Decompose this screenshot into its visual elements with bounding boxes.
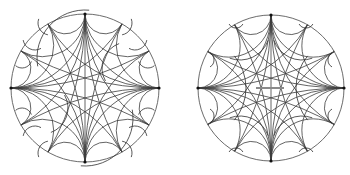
geodesic-arc	[48, 14, 85, 34]
geodesic-arc	[11, 51, 31, 88]
geodesic-arc	[271, 141, 308, 161]
hyperbolic-tiling-figure	[0, 0, 350, 175]
left-poincare-disk	[9, 10, 160, 166]
detail-arc	[16, 61, 32, 68]
geodesic-arc	[11, 88, 85, 162]
detail-arc	[23, 126, 41, 136]
geodesic-arc	[271, 15, 308, 35]
geodesic-arc	[324, 52, 344, 89]
geodesic-arc	[235, 15, 272, 35]
geodesic-arc	[11, 14, 85, 88]
ideal-vertex-dot	[157, 86, 160, 89]
geodesic-arc	[85, 14, 159, 88]
detail-arc	[129, 40, 147, 50]
ideal-vertex-dot	[83, 12, 86, 15]
geodesic-arc	[198, 52, 218, 89]
geodesic-arc	[198, 88, 271, 161]
detail-arc	[139, 108, 155, 115]
geodesic-arc	[324, 88, 344, 125]
ideal-vertex-dot	[196, 86, 199, 89]
geodesic-arc	[85, 88, 159, 162]
geodesic-arc	[271, 15, 344, 88]
geodesic-arc	[198, 15, 271, 88]
ideal-vertex-dot	[9, 86, 12, 89]
geodesic-arc	[11, 88, 31, 125]
geodesic-arc	[198, 88, 218, 125]
geodesic-arc	[85, 14, 122, 34]
right-poincare-disk	[196, 13, 345, 162]
ideal-vertex-dot	[83, 160, 86, 163]
geodesic-arc	[235, 141, 272, 161]
figure-canvas	[0, 0, 350, 175]
geodesic-arc	[139, 51, 159, 88]
detail-arc	[139, 61, 155, 68]
geodesic-arc	[139, 88, 159, 125]
ideal-vertex-dot	[269, 13, 272, 16]
geodesic-arc	[85, 142, 122, 162]
geodesic-arc	[271, 88, 344, 161]
geodesic-arc	[48, 142, 85, 162]
ideal-vertex-dot	[269, 159, 272, 162]
detail-arc	[16, 108, 32, 115]
ideal-vertex-dot	[342, 86, 345, 89]
